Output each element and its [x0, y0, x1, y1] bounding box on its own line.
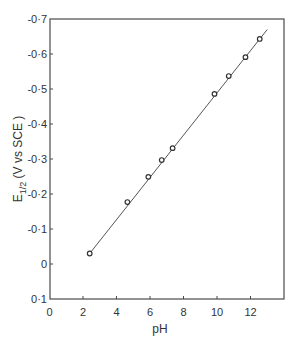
regression-line [90, 30, 268, 254]
plot-frame [50, 19, 284, 299]
data-point-marker [159, 158, 164, 163]
data-point-marker [243, 55, 248, 60]
y-axis-label-units: (V vs SCE ) [11, 116, 25, 182]
data-point-marker [212, 92, 217, 97]
chart: 024681012 -0·7-0·6-0·5-0·4-0·3-0·2-0·100… [0, 0, 299, 352]
y-axis-ticks: -0·7-0·6-0·5-0·4-0·3-0·2-0·100·1 [27, 13, 53, 305]
y-tick-label: 0·1 [31, 293, 47, 305]
y-axis-label: E1/2 (V vs SCE ) [11, 116, 28, 203]
data-point-marker [226, 74, 231, 79]
x-tick-label: 4 [113, 306, 119, 318]
y-tick-label: -0·3 [27, 153, 47, 165]
data-point-marker [257, 37, 262, 42]
y-tick-label: -0·4 [27, 118, 47, 130]
x-tick-label: 8 [180, 306, 186, 318]
y-tick-label: -0·6 [27, 48, 47, 60]
y-tick-label: -0·7 [27, 13, 47, 25]
x-axis-label: pH [152, 322, 167, 336]
y-axis-label-subscript: 1/2 [18, 182, 28, 195]
y-tick-label: -0·1 [27, 223, 47, 235]
y-tick-label: -0·2 [27, 188, 47, 200]
y-tick-label: -0·5 [27, 83, 47, 95]
y-axis-label-main: E [11, 194, 25, 202]
data-point-marker [125, 200, 130, 205]
x-tick-label: 10 [211, 306, 223, 318]
x-tick-label: 12 [244, 306, 256, 318]
data-point-marker [170, 146, 175, 151]
x-tick-label: 0 [46, 306, 52, 318]
data-point-marker [146, 175, 151, 180]
x-tick-label: 6 [147, 306, 153, 318]
data-point-marker [87, 251, 92, 256]
y-tick-label: 0 [41, 258, 47, 270]
x-tick-label: 2 [80, 306, 86, 318]
